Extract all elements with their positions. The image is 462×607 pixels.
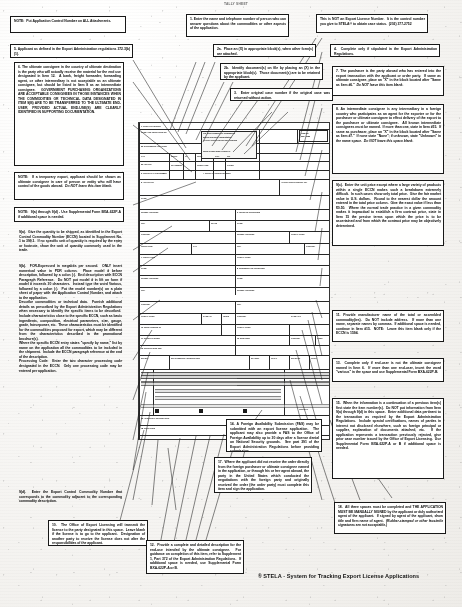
callout-note-1: 1. Enter the name and telephone number o… — [186, 14, 289, 37]
stela-footer: ® STELA - System for Tracking Export Lic… — [258, 573, 419, 579]
note-text: NOTE: If a temporary export, applicant s… — [18, 175, 121, 188]
note-text: 2b. Identify document(s) on file by plac… — [224, 66, 320, 79]
note-text: 5. Applicant as defined in the Export Ad… — [14, 47, 130, 56]
callout-note-2b: 2b. Identify document(s) on file by plac… — [220, 63, 323, 80]
note-text: NOTE: 9(a) through 9(d) - Use Supplement… — [18, 210, 121, 219]
note-text: This is NOT an Export License Number. It… — [320, 17, 425, 26]
note-text: 14. A Foreign Availability Submission (F… — [230, 422, 319, 452]
callout-note-9-supplemental: NOTE: 9(a) through 9(d) - Use Supplement… — [14, 207, 124, 222]
note-text: 9(b). FOR-Expressed in megabits per seco… — [19, 264, 122, 373]
note-text: 9(d). Enter the Export Control Commodity… — [19, 490, 122, 503]
scanned-page: TALLY SHEET — [0, 0, 462, 607]
note-text: 17. Where the applicant did not receive … — [218, 460, 309, 491]
note-text: NOTE: Put Application Control Number on … — [14, 19, 111, 23]
callout-note-2a: 2a. Place an (X) in appropriate block(s)… — [213, 44, 316, 57]
note-text: 8. An intermediate consignee is any inte… — [336, 107, 441, 143]
callout-note-4: 4. Complete only if stipulated in the Ex… — [330, 44, 440, 57]
callout-note-control-number: This is NOT an Export License Number. It… — [316, 14, 428, 33]
page-top-header: TALLY SHEET — [176, 2, 296, 6]
footer-label: STELA - System for Tracking Export Licen… — [263, 573, 419, 579]
callout-note-10: 10. The Office of Export Licensing will … — [48, 520, 148, 546]
note-text: 2a. Place an (X) in appropriate block(s)… — [217, 47, 313, 56]
note-text: 12. Provide a complete and detailed desc… — [150, 543, 241, 570]
callout-note-13: 13. Complete only if end-user is not the… — [332, 358, 444, 382]
export-license-application-form-image: 1. CONTACT PERSON NAME AND TELEPHONE NO.… — [138, 122, 330, 440]
callout-note-5: 5. Applicant as defined in the Export Ad… — [10, 44, 133, 58]
note-text: 3. Enter original case number if the ori… — [234, 91, 330, 100]
note-text: 7. The purchaser is the party abroad who… — [336, 69, 441, 87]
note-text: 15. When the information is a continuati… — [336, 401, 441, 450]
registered-mark: ® — [258, 573, 262, 579]
callout-note-9a: 9(a). Give the quantity to be shipped, a… — [16, 228, 124, 259]
callout-note-18: 18. All three spaces must be completed a… — [334, 502, 446, 534]
callout-note-3: 3. Enter original case number if the ori… — [230, 88, 333, 101]
note-text: 10. The Office of Export Licensing will … — [52, 523, 145, 545]
note-text: 11. Provide manufacturer name of the tot… — [336, 313, 441, 335]
note-text: 1. Enter the name and telephone number o… — [190, 17, 286, 30]
callout-note-11: 11. Provide manufacturer name of the tot… — [332, 310, 444, 342]
callout-note-9b: 9(b). FOR-Expressed in megabits per seco… — [16, 262, 124, 484]
callout-note-8: 8. An intermediate consignee is any inte… — [332, 104, 444, 174]
callout-note-9c: 9(c). Enter the unit price except where … — [332, 180, 444, 246]
callout-note-attachments: NOTE: Put Application Control Number on … — [10, 16, 126, 33]
callout-note-12: 12. Provide a complete and detailed desc… — [146, 540, 244, 574]
callout-note-9d: 9(d). Enter the Export Control Commodity… — [16, 488, 124, 507]
note-text: 4. Complete only if stipulated in the Ex… — [334, 47, 437, 56]
note-text: 9(c). Enter the unit price except where … — [336, 183, 441, 228]
callout-note-14: 14. A Foreign Availability Submission (F… — [226, 419, 322, 452]
note-text: 13. Complete only if end-user is not the… — [336, 361, 441, 374]
note-text: 9(a). Give the quantity to be shipped, a… — [19, 230, 122, 252]
note-text: 18. All three spaces must be completed a… — [338, 505, 443, 527]
callout-note-6: 6. The ultimate consignee in the country… — [14, 62, 124, 166]
callout-note-6-temporary: NOTE: If a temporary export, applicant s… — [14, 172, 124, 200]
callout-note-17: 17. Where the applicant did not receive … — [214, 457, 312, 493]
callout-note-15: 15. When the information is a continuati… — [332, 398, 444, 479]
callout-note-7: 7. The purchaser is the party abroad who… — [332, 66, 444, 96]
note-text: 6. The ultimate consignee in the country… — [18, 65, 121, 114]
